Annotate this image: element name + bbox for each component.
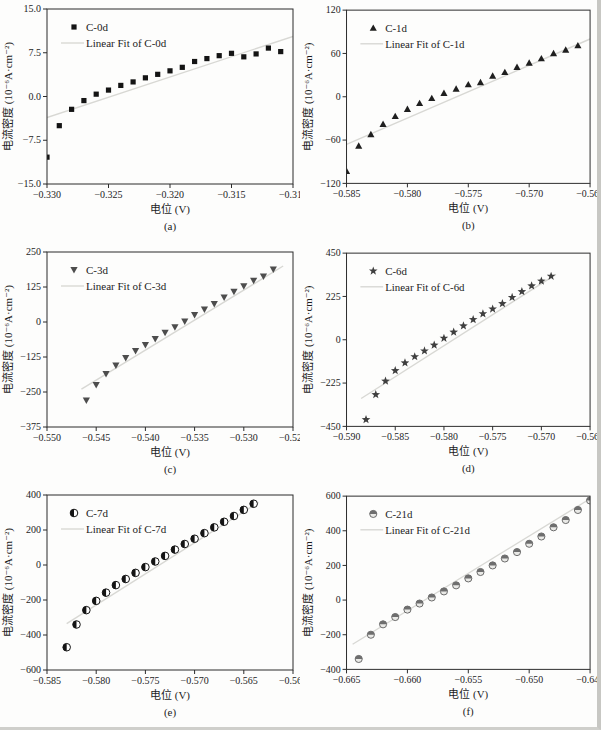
y-tick-label: 60 bbox=[331, 48, 341, 59]
panel-label: (f) bbox=[463, 705, 474, 718]
data-point-marker bbox=[379, 121, 386, 127]
legend: C-6dLinear Fit of C-6d bbox=[360, 265, 465, 293]
x-tick-label: −0.330 bbox=[33, 189, 61, 200]
data-point-marker bbox=[254, 51, 259, 56]
y-tick-label: 225 bbox=[326, 291, 341, 302]
y-tick-label: 0 bbox=[336, 334, 341, 345]
data-point-marker bbox=[404, 105, 411, 111]
y-tick-label: 0 bbox=[36, 316, 41, 327]
panel-label: (b) bbox=[462, 219, 475, 232]
legend-fit-label: Linear Fit of C-1d bbox=[385, 38, 465, 50]
data-point-marker bbox=[440, 90, 447, 96]
x-tick-label: −0.530 bbox=[230, 432, 258, 443]
legend-fit-label: Linear Fit of C-6d bbox=[385, 281, 465, 293]
legend-fit-label: Linear Fit of C-21d bbox=[385, 524, 470, 536]
x-tick-label: −0.575 bbox=[479, 431, 507, 442]
y-tick-label: 7.5 bbox=[29, 47, 42, 58]
y-axis-label: 电流密度 (10⁻⁶A·cm⁻²) bbox=[301, 528, 315, 637]
chart-c: −0.550−0.545−0.540−0.535−0.530−0.525−375… bbox=[0, 243, 300, 486]
plot-data-layer bbox=[343, 39, 590, 174]
legend: C-1dLinear Fit of C-1d bbox=[360, 22, 465, 50]
x-axis-label: 电位 (V) bbox=[150, 202, 190, 216]
data-point-marker bbox=[453, 85, 460, 91]
x-tick-label: −0.645 bbox=[576, 674, 597, 685]
y-tick-label: 450 bbox=[326, 247, 341, 258]
data-point-marker bbox=[171, 324, 178, 331]
panel-label: (c) bbox=[164, 463, 177, 476]
linear-fit-line bbox=[353, 499, 590, 645]
chart-a: −0.330−0.325−0.320−0.315−0.310−15.0−7.50… bbox=[0, 0, 300, 243]
data-point-marker bbox=[477, 79, 484, 85]
data-point-marker bbox=[241, 54, 246, 59]
linear-fit-line bbox=[361, 274, 556, 398]
data-point-marker bbox=[430, 341, 439, 349]
y-tick-label: −15.0 bbox=[18, 178, 41, 189]
x-tick-label: −0.535 bbox=[181, 432, 209, 443]
x-tick-label: −0.575 bbox=[131, 675, 159, 686]
x-tick-label: −0.575 bbox=[454, 188, 482, 199]
x-tick-label: −0.585 bbox=[33, 675, 61, 686]
figure-page: −0.330−0.325−0.320−0.315−0.310−15.0−7.50… bbox=[0, 0, 601, 730]
data-point-marker bbox=[191, 312, 198, 319]
data-point-marker bbox=[69, 107, 74, 112]
data-point-marker bbox=[71, 24, 76, 29]
panel-label: (d) bbox=[462, 462, 475, 475]
data-point-marker bbox=[118, 83, 123, 88]
legend-fit-label: Linear Fit of C-0d bbox=[86, 37, 167, 49]
x-tick-label: −0.665 bbox=[333, 674, 361, 685]
y-tick-label: −600 bbox=[20, 664, 41, 675]
legend-series-label: C-3d bbox=[86, 264, 109, 276]
plot-frame bbox=[347, 496, 591, 669]
legend-series-label: C-1d bbox=[385, 22, 407, 34]
data-point-marker bbox=[367, 131, 374, 137]
plot-data-layer bbox=[44, 36, 293, 159]
y-tick-label: −400 bbox=[320, 664, 340, 675]
y-tick-label: 400 bbox=[326, 525, 341, 536]
legend: C-7dLinear Fit of C-7d bbox=[61, 507, 167, 535]
data-point-marker bbox=[106, 87, 111, 92]
x-tick-label: −0.525 bbox=[279, 432, 300, 443]
y-tick-label: −450 bbox=[320, 421, 340, 432]
x-axis-label: 电位 (V) bbox=[150, 445, 190, 459]
data-point-marker bbox=[392, 113, 399, 119]
y-tick-label: −375 bbox=[20, 421, 41, 432]
x-tick-label: −0.310 bbox=[279, 189, 300, 200]
y-tick-label: 0 bbox=[336, 594, 341, 605]
x-tick-label: −0.650 bbox=[515, 674, 543, 685]
data-point-marker bbox=[192, 59, 197, 64]
y-tick-label: −400 bbox=[20, 629, 41, 640]
y-axis-label: 电流密度 (10⁻⁶A·cm⁻²) bbox=[1, 528, 15, 637]
legend-series-label: C-0d bbox=[86, 21, 109, 33]
plot-data-layer bbox=[361, 272, 556, 424]
data-point-marker bbox=[112, 363, 119, 370]
y-tick-label: 400 bbox=[26, 489, 41, 500]
plot-data-layer bbox=[353, 497, 594, 663]
y-axis-label: 电流密度 (10⁻⁶A·cm⁻²) bbox=[1, 42, 15, 151]
panel-e: −0.585−0.580−0.575−0.570−0.565−0.560−600… bbox=[0, 486, 300, 727]
chart-e: −0.585−0.580−0.575−0.570−0.565−0.560−600… bbox=[0, 486, 300, 729]
panel-b: −0.585−0.580−0.575−0.570−0.565−120−60060… bbox=[300, 0, 597, 243]
x-tick-label: −0.565 bbox=[230, 675, 258, 686]
x-tick-label: −0.320 bbox=[156, 189, 184, 200]
legend-series-label: C-6d bbox=[385, 265, 407, 277]
data-point-marker bbox=[278, 49, 283, 54]
y-axis-label: 电流密度 (10⁻⁶A·cm⁻²) bbox=[301, 42, 315, 151]
legend-series-label: C-7d bbox=[86, 507, 109, 519]
linear-fit-line bbox=[67, 502, 259, 623]
x-tick-label: −0.580 bbox=[82, 675, 110, 686]
y-tick-label: 0.0 bbox=[29, 91, 42, 102]
x-tick-label: −0.585 bbox=[381, 431, 409, 442]
data-point-marker bbox=[161, 330, 168, 337]
data-point-marker bbox=[132, 348, 139, 355]
data-point-marker bbox=[449, 327, 458, 335]
legend-series-label: C-21d bbox=[385, 508, 413, 520]
x-tick-label: −0.560 bbox=[279, 675, 300, 686]
x-axis-label: 电位 (V) bbox=[448, 201, 488, 215]
y-axis-label: 电流密度 (10⁻⁶A·cm⁻²) bbox=[301, 285, 315, 394]
data-point-marker bbox=[70, 267, 77, 274]
data-point-marker bbox=[370, 24, 377, 30]
panel-a: −0.330−0.325−0.320−0.315−0.310−15.0−7.50… bbox=[0, 0, 300, 243]
data-point-marker bbox=[501, 69, 508, 75]
x-axis-label: 电位 (V) bbox=[150, 688, 190, 702]
data-point-marker bbox=[410, 352, 419, 360]
